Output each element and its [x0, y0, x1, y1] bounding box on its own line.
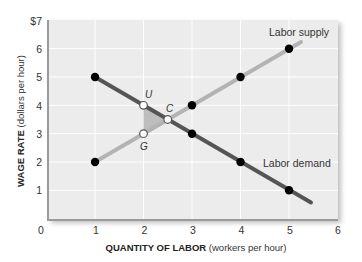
point-g-marker	[140, 130, 148, 138]
x-axis-title-unit: (workers per hour)	[206, 242, 286, 253]
point-c-label: C	[166, 103, 174, 114]
x-tick-origin: 0	[38, 224, 44, 236]
data-point	[236, 158, 244, 166]
point-g-label: G	[140, 141, 148, 152]
y-tick: 5	[36, 71, 42, 83]
y-tick: 2	[36, 156, 42, 168]
data-point	[188, 130, 196, 138]
labor-market-chart: U C G Labor supply Labor demand $7 6 5 4…	[0, 0, 362, 262]
point-u-label: U	[145, 89, 153, 100]
x-tick: 5	[287, 224, 293, 236]
y-axis-title: WAGE RATE (dollars per hour)	[15, 55, 26, 187]
x-axis-title-main: QUANTITY OF LABOR	[106, 242, 207, 253]
y-axis-title-unit: (dollars per hour)	[15, 55, 26, 130]
data-point	[91, 158, 99, 166]
y-tick: 6	[36, 43, 42, 55]
y-tick: $7	[30, 15, 42, 27]
data-point	[188, 101, 196, 109]
x-tick: 3	[190, 224, 196, 236]
x-tick: 6	[335, 224, 341, 236]
labor-demand-label: Labor demand	[263, 157, 331, 169]
y-axis-title-main: WAGE RATE	[15, 130, 26, 187]
labor-supply-label: Labor supply	[269, 26, 330, 38]
y-tick: 1	[36, 184, 42, 196]
data-point	[285, 45, 293, 53]
x-axis-title: QUANTITY OF LABOR (workers per hour)	[106, 242, 287, 253]
point-c-marker	[164, 116, 172, 124]
x-tick: 2	[142, 224, 148, 236]
y-tick: 4	[36, 100, 42, 112]
y-tick-labels: $7 6 5 4 3 2 1	[30, 15, 42, 196]
data-point	[236, 73, 244, 81]
x-tick: 1	[93, 224, 99, 236]
x-tick: 4	[239, 224, 245, 236]
y-tick: 3	[36, 128, 42, 140]
x-tick-labels: 0 1 2 3 4 5 6	[38, 224, 341, 236]
data-point	[91, 73, 99, 81]
point-u-marker	[140, 102, 148, 110]
data-point	[285, 186, 293, 194]
plot-area	[47, 20, 338, 220]
